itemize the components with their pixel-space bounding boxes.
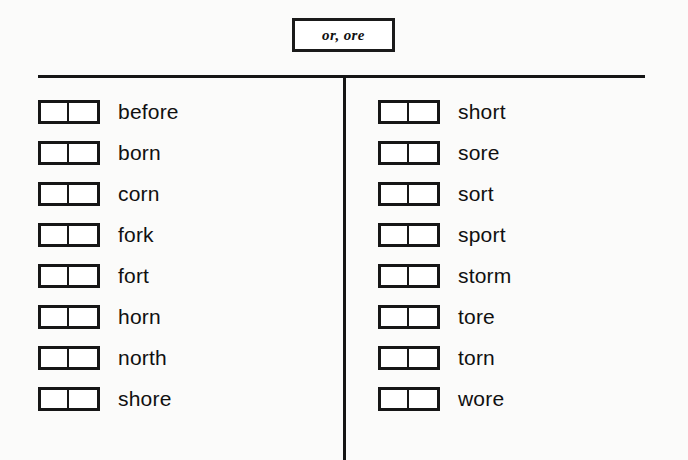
word-label: sort (458, 182, 494, 206)
vertical-divider (343, 77, 346, 460)
checkbox-cell-second[interactable] (69, 226, 97, 244)
checkbox-pair[interactable] (378, 305, 440, 329)
word-label: sore (458, 141, 500, 165)
checkbox-cell-second[interactable] (409, 267, 437, 285)
list-item: corn (38, 182, 179, 206)
word-label: storm (458, 264, 512, 288)
list-item: fort (38, 264, 179, 288)
checkbox-cell-first[interactable] (41, 144, 69, 162)
word-label: before (118, 100, 179, 124)
title-box: or, ore (292, 18, 395, 52)
checkbox-cell-first[interactable] (41, 103, 69, 121)
word-label: shore (118, 387, 172, 411)
checkbox-cell-second[interactable] (409, 390, 437, 408)
checkbox-cell-first[interactable] (41, 349, 69, 367)
checkbox-cell-second[interactable] (69, 308, 97, 326)
list-item: horn (38, 305, 179, 329)
word-label: fort (118, 264, 149, 288)
checkbox-pair[interactable] (38, 223, 100, 247)
word-label: wore (458, 387, 504, 411)
list-item: wore (378, 387, 512, 411)
list-item: before (38, 100, 179, 124)
checkbox-cell-second[interactable] (69, 267, 97, 285)
word-label: fork (118, 223, 154, 247)
checkbox-cell-second[interactable] (409, 226, 437, 244)
checkbox-cell-second[interactable] (409, 308, 437, 326)
checkbox-cell-first[interactable] (381, 103, 409, 121)
horizontal-divider (38, 75, 645, 78)
checkbox-cell-first[interactable] (381, 349, 409, 367)
checkbox-cell-first[interactable] (41, 185, 69, 203)
checkbox-cell-second[interactable] (69, 103, 97, 121)
checkbox-cell-second[interactable] (69, 349, 97, 367)
checkbox-cell-second[interactable] (409, 103, 437, 121)
list-item: storm (378, 264, 512, 288)
checkbox-cell-first[interactable] (381, 226, 409, 244)
checkbox-cell-first[interactable] (381, 185, 409, 203)
word-label: tore (458, 305, 495, 329)
checkbox-pair[interactable] (378, 223, 440, 247)
checkbox-pair[interactable] (38, 141, 100, 165)
checkbox-cell-first[interactable] (41, 267, 69, 285)
list-item: sort (378, 182, 512, 206)
left-column: before born corn fork fort hor (38, 100, 179, 428)
checkbox-cell-first[interactable] (41, 308, 69, 326)
checkbox-pair[interactable] (378, 387, 440, 411)
checkbox-cell-second[interactable] (409, 185, 437, 203)
checkbox-cell-first[interactable] (41, 226, 69, 244)
checkbox-pair[interactable] (38, 305, 100, 329)
checkbox-pair[interactable] (38, 182, 100, 206)
word-label: sport (458, 223, 506, 247)
checkbox-pair[interactable] (378, 264, 440, 288)
list-item: sport (378, 223, 512, 247)
checkbox-pair[interactable] (38, 346, 100, 370)
checkbox-cell-first[interactable] (41, 390, 69, 408)
list-item: torn (378, 346, 512, 370)
word-label: short (458, 100, 506, 124)
checkbox-cell-second[interactable] (409, 144, 437, 162)
checkbox-cell-first[interactable] (381, 267, 409, 285)
list-item: short (378, 100, 512, 124)
list-item: fork (38, 223, 179, 247)
word-label: horn (118, 305, 161, 329)
word-label: north (118, 346, 167, 370)
checkbox-pair[interactable] (378, 141, 440, 165)
list-item: shore (38, 387, 179, 411)
checkbox-cell-first[interactable] (381, 144, 409, 162)
checkbox-cell-second[interactable] (409, 349, 437, 367)
right-column: short sore sort sport storm to (378, 100, 512, 428)
word-label: born (118, 141, 161, 165)
checkbox-pair[interactable] (38, 264, 100, 288)
checkbox-cell-second[interactable] (69, 390, 97, 408)
word-label: corn (118, 182, 160, 206)
word-label: torn (458, 346, 495, 370)
list-item: tore (378, 305, 512, 329)
page-title: or, ore (322, 27, 365, 44)
list-item: born (38, 141, 179, 165)
checkbox-cell-second[interactable] (69, 185, 97, 203)
list-item: north (38, 346, 179, 370)
checkbox-cell-first[interactable] (381, 308, 409, 326)
checkbox-pair[interactable] (38, 100, 100, 124)
checkbox-cell-second[interactable] (69, 144, 97, 162)
checkbox-cell-first[interactable] (381, 390, 409, 408)
checkbox-pair[interactable] (378, 346, 440, 370)
checkbox-pair[interactable] (38, 387, 100, 411)
checkbox-pair[interactable] (378, 100, 440, 124)
checkbox-pair[interactable] (378, 182, 440, 206)
list-item: sore (378, 141, 512, 165)
